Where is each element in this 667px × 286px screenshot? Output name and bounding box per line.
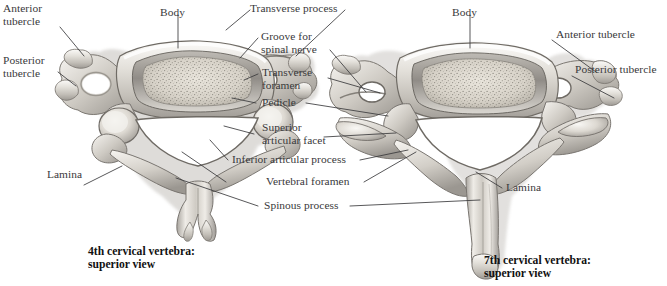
label-transverse-process: Transverse process xyxy=(250,2,337,15)
label-groove-for-spinal-nerve: Groove for spinal nerve xyxy=(261,30,317,55)
label-superior-articular-facet: Superior articular facet xyxy=(262,121,326,146)
label-lamina-left: Lamina xyxy=(47,168,82,181)
label-posterior-tubercle-left: Posterior tubercle xyxy=(3,54,45,79)
label-pedicle: Pedicle xyxy=(262,96,296,109)
caption-c7: 7th cervical vertebra: superior view xyxy=(484,254,591,280)
vertebrae-illustration xyxy=(0,0,667,286)
c7-posterior-tubercle-right xyxy=(599,87,622,106)
c4-posterior-tubercle-left xyxy=(55,80,78,100)
label-anterior-tubercle-right: Anterior tubercle xyxy=(556,28,635,41)
label-vertebral-foramen: Vertebral foramen xyxy=(266,175,349,188)
caption-c4: 4th cervical vertebra: superior view xyxy=(88,245,195,271)
label-body-right: Body xyxy=(452,6,477,19)
label-spinous-process: Spinous process xyxy=(264,199,338,212)
label-posterior-tubercle-right: Posterior tubercle xyxy=(575,63,657,76)
anatomy-figure: Anterior tubercle Posterior tubercle Bod… xyxy=(0,0,667,286)
label-inferior-articular-process: Inferior articular process xyxy=(232,153,346,166)
label-anterior-tubercle-left: Anterior tubercle xyxy=(3,2,42,27)
label-body-left: Body xyxy=(160,6,185,19)
c7-vertebra xyxy=(330,43,623,279)
label-lamina-right: Lamina xyxy=(506,181,541,194)
label-transverse-foramen: Transverse foramen xyxy=(262,66,312,91)
